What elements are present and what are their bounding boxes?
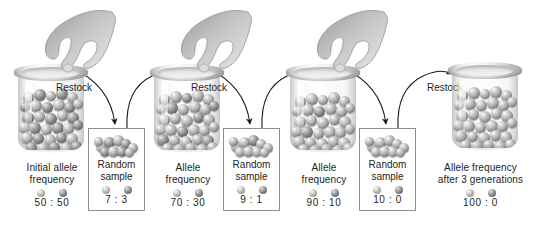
- jar-highlight: [161, 82, 168, 134]
- allele-dark-swatch: [259, 186, 267, 194]
- caption-line: Random: [91, 159, 142, 171]
- hand-icon: [160, 6, 252, 78]
- generation-3-caption: Allele frequency after 3 generations 100…: [425, 162, 536, 209]
- jar-shadow: [21, 145, 81, 153]
- jar-highlight: [459, 80, 466, 132]
- caption-line: Random: [362, 159, 413, 171]
- allele-ratio: 10 : 0: [362, 194, 413, 206]
- restock-arrow: [127, 76, 152, 128]
- random-sample-3: Random sample 10 : 0: [359, 128, 416, 211]
- allele-dark-swatch: [331, 189, 339, 197]
- jar-shadow: [293, 145, 353, 153]
- allele-light-swatch: [237, 186, 245, 194]
- allele-dark-swatch: [124, 186, 132, 194]
- caption-line: sample: [362, 171, 413, 183]
- jar-shadow: [455, 143, 515, 151]
- genetic-drift-diagram: Initial allele frequency 50 : 50 Random …: [0, 0, 536, 238]
- caption-line: sample: [226, 171, 277, 183]
- allele-dark-swatch: [488, 189, 496, 197]
- restock-label-2: Restock: [191, 82, 227, 93]
- sample-marble-cluster: [94, 134, 140, 157]
- allele-light-swatch: [373, 186, 381, 194]
- jar-highlight: [25, 82, 32, 134]
- sample-marble-cluster: [229, 134, 275, 157]
- allele-light-swatch: [466, 189, 474, 197]
- allele-ratio: 100 : 0: [425, 197, 536, 209]
- allele-ratio: 9 : 1: [226, 194, 277, 206]
- allele-swatches: [362, 186, 413, 194]
- allele-ratio: 7 : 3: [91, 194, 142, 206]
- allele-swatches: [226, 186, 277, 194]
- allele-light-swatch: [173, 189, 181, 197]
- hand-icon: [296, 6, 388, 78]
- sample-marble-cluster: [365, 134, 411, 157]
- allele-light-swatch: [102, 186, 110, 194]
- allele-swatches: [91, 186, 142, 194]
- caption-line: after 3 generations: [425, 174, 536, 186]
- generation-3-jar: [448, 62, 522, 148]
- caption-line: Random: [226, 159, 277, 171]
- allele-dark-swatch: [195, 189, 203, 197]
- jar-highlight: [297, 82, 304, 134]
- allele-light-swatch: [309, 189, 317, 197]
- allele-dark-swatch: [59, 189, 67, 197]
- caption-line: sample: [91, 171, 142, 183]
- jar-mouth: [456, 65, 514, 76]
- restock-arrow: [262, 76, 287, 128]
- restock-arrow: [398, 76, 423, 128]
- allele-light-swatch: [37, 189, 45, 197]
- restock-label-1: Restock: [56, 82, 92, 93]
- allele-swatches: [425, 189, 536, 197]
- caption-line: Allele frequency: [425, 162, 536, 174]
- allele-dark-swatch: [395, 186, 403, 194]
- jar-shadow: [157, 145, 217, 153]
- hand-icon: [24, 6, 116, 78]
